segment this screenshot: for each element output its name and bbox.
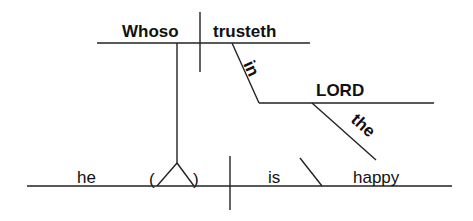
preposition: in [239, 58, 263, 80]
predicate-adjective: happy [353, 168, 400, 187]
sentence-diagram: Whoso trusteth in LORD the ( ) he is hap… [0, 0, 473, 221]
fork-left [157, 163, 177, 186]
complement-slant [300, 158, 322, 186]
clause-subject: Whoso [122, 22, 179, 41]
prep-object: LORD [316, 81, 364, 100]
fork-right [177, 163, 194, 186]
clause-verb: trusteth [213, 22, 276, 41]
main-subject: he [77, 168, 96, 187]
main-verb: is [268, 168, 280, 187]
article: the [347, 110, 379, 141]
